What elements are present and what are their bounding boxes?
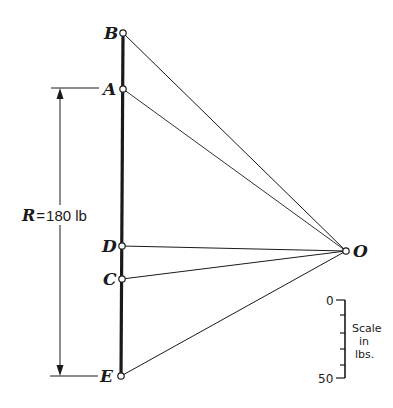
ray-A-O [123, 89, 346, 251]
node-A [120, 86, 126, 92]
reaction-label: R=180 lb [21, 206, 87, 225]
reaction-symbol: R [21, 206, 35, 225]
dim-arrow-up-icon [57, 88, 64, 99]
label-E: E [99, 366, 114, 386]
dim-arrow-down-icon [57, 365, 64, 376]
scale-top-value: 0 [326, 294, 334, 308]
label-A: A [101, 79, 116, 99]
force-polygon-diagram: B A D C E O R=180 lb 0 50 Scale in lbs. [0, 0, 393, 408]
node-B [120, 30, 126, 36]
diagram-svg: B A D C E O R=180 lb 0 50 Scale in lbs. [0, 0, 393, 408]
ray-E-O [121, 251, 346, 376]
label-D: D [101, 236, 117, 256]
node-O [343, 248, 349, 254]
label-B: B [103, 23, 118, 43]
load-line [121, 33, 123, 376]
reaction-value: 180 lb [46, 207, 87, 224]
scale-label-line1: Scale [352, 322, 382, 335]
ray-B-O [123, 33, 346, 251]
node-C [119, 276, 125, 282]
node-E [118, 373, 124, 379]
scale-bottom-value: 50 [318, 372, 333, 386]
scale-label-line2: in [359, 335, 369, 348]
ray-C-O [122, 251, 346, 279]
ray-D-O [122, 246, 346, 251]
label-O: O [353, 241, 368, 261]
node-D [119, 243, 125, 249]
label-C: C [103, 269, 117, 289]
scale-label-line3: lbs. [355, 348, 374, 361]
reaction-equals: = [36, 207, 45, 224]
